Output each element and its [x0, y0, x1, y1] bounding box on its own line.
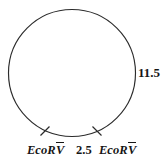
total-size-label: 11.5 [138, 66, 160, 79]
enzyme-name-left: EcoR [27, 143, 55, 157]
restriction-site-tick-left [41, 127, 50, 136]
fragment-size-label: 2.5 [76, 144, 92, 157]
map-drawing [0, 0, 162, 162]
roman-numeral-right: V [128, 142, 136, 157]
restriction-site-label-left: EcoRV [27, 144, 64, 157]
restriction-site-label-right: EcoRV [99, 144, 136, 157]
roman-numeral-left: V [56, 142, 64, 157]
enzyme-name-right: EcoR [99, 143, 127, 157]
circular-restriction-map-figure: the sizes 11.5 EcoRV 2.5 EcoRV [0, 0, 162, 162]
restriction-site-tick-right [93, 127, 102, 136]
dna-circle [9, 10, 136, 137]
